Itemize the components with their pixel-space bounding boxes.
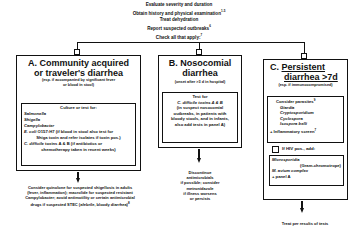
panel-b-test-box: Test for C. difficile toxins A & B (in s…: [162, 92, 238, 143]
header-line-4: Report suspected outbreaks6: [0, 23, 358, 32]
panel-b-recommendation: Discontinue antimicrobials if possible; …: [160, 170, 240, 201]
inflammatory-screen: + Inflammatory screen7: [270, 128, 341, 135]
hiv-panel-a: + panel A: [272, 174, 341, 180]
header: Evaluate severity and duration Obtain hi…: [0, 2, 358, 41]
panel-c-title: C. Persistent diarrhea >7d: [264, 62, 347, 82]
panel-a-subtitle: (esp. if accompanied by significant feve…: [17, 78, 140, 87]
checkbox-hiv[interactable]: [272, 146, 279, 153]
panel-c-recommendation: Treat per results of tests: [262, 221, 348, 226]
panel-c: C. Persistent diarrhea >7d (esp. if immu…: [263, 59, 348, 200]
parasite-isospora: Isospora belli: [270, 121, 341, 126]
panel-a-recommendation: Consider quinolone for suspected shigell…: [0, 185, 160, 207]
connector-horizontal: [77, 42, 304, 43]
panel-a: A. Community acquired or traveler's diar…: [16, 55, 141, 171]
hiv-label: If HIV pos., add:: [282, 146, 315, 151]
panel-b-title: B. Nosocomial diarrhea: [159, 58, 241, 78]
panel-c-hiv-box: Microsporidia (Gram-chromotrope) M. aviu…: [269, 155, 344, 186]
header-line-5: Check all that apply:7: [0, 32, 358, 41]
panel-b: B. Nosocomial diarrhea (onset after >3 d…: [158, 55, 242, 148]
panel-b-subtitle: (onset after >3 d in hospital): [159, 80, 241, 85]
panel-a-title: A. Community acquired or traveler's diar…: [17, 58, 140, 78]
panel-c-parasites-box: Consider parasites9 Giardia Cryptosporid…: [267, 96, 344, 143]
panel-a-culture-box: Culture or test for: Salmonella Shigella…: [21, 103, 136, 166]
cdiff-note: chemotherapy taken in recent weeks): [24, 147, 133, 153]
header-line-2: Obtain history and physical examination1…: [0, 8, 358, 17]
parasites-heading: Consider parasites9: [270, 98, 341, 105]
panel-c-subtitle: (esp. if immunocompromised): [264, 83, 347, 88]
